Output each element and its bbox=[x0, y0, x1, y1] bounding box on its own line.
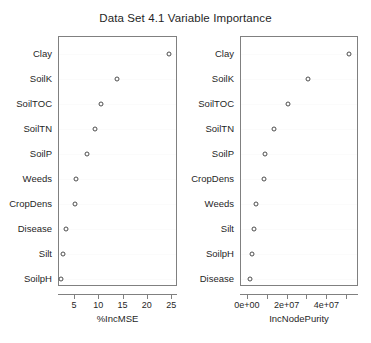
x-axis-tick bbox=[74, 295, 75, 299]
grid-row bbox=[241, 79, 357, 80]
x-axis-tick bbox=[147, 295, 148, 299]
data-point-soilk bbox=[115, 77, 120, 82]
grid-row bbox=[241, 104, 357, 105]
x-axis-tick-label: 0e+00 bbox=[234, 301, 259, 310]
category-label-clay: Clay bbox=[0, 49, 52, 59]
grid-row bbox=[59, 54, 176, 55]
data-point-weeds bbox=[73, 177, 78, 182]
x-axis-tick-label: 2e+07 bbox=[274, 301, 299, 310]
grid-row bbox=[241, 204, 357, 205]
plot-area bbox=[240, 36, 358, 286]
grid-row bbox=[241, 54, 357, 55]
x-axis-tick bbox=[267, 295, 268, 299]
grid-row bbox=[59, 279, 176, 280]
category-label-weeds: Weeds bbox=[182, 199, 234, 209]
x-axis-tick bbox=[171, 295, 172, 299]
x-axis-tick-label: 5 bbox=[72, 301, 77, 310]
category-label-soilp: SoilP bbox=[182, 149, 234, 159]
category-label-weeds: Weeds bbox=[0, 174, 52, 184]
x-axis-tick-label: 4e+07 bbox=[314, 301, 339, 310]
grid-row bbox=[241, 154, 357, 155]
x-axis-tick bbox=[306, 295, 307, 299]
grid-row bbox=[241, 129, 357, 130]
grid-row bbox=[241, 279, 357, 280]
data-point-clay bbox=[166, 52, 171, 57]
grid-row bbox=[59, 154, 176, 155]
grid-row bbox=[241, 179, 357, 180]
grid-row bbox=[241, 254, 357, 255]
category-label-soilk: SoilK bbox=[0, 74, 52, 84]
category-label-cropdens: CropDens bbox=[0, 199, 52, 209]
x-axis-tick bbox=[123, 295, 124, 299]
category-label-soiltoc: SoilTOC bbox=[182, 99, 234, 109]
category-label-silt: Silt bbox=[182, 224, 234, 234]
grid-row bbox=[59, 229, 176, 230]
x-axis-line bbox=[58, 294, 177, 295]
variable-importance-figure: Data Set 4.1 Variable Importance ClaySoi… bbox=[0, 0, 371, 343]
data-point-disease bbox=[247, 277, 252, 282]
grid-row bbox=[59, 104, 176, 105]
category-label-soiltn: SoilTN bbox=[0, 124, 52, 134]
page-title: Data Set 4.1 Variable Importance bbox=[0, 12, 371, 24]
grid-row bbox=[59, 254, 176, 255]
data-point-soiltoc bbox=[285, 102, 290, 107]
grid-row bbox=[241, 229, 357, 230]
data-point-soilp bbox=[262, 152, 267, 157]
data-point-soiltn bbox=[92, 127, 97, 132]
x-axis-title: IncNodePurity bbox=[269, 314, 329, 324]
category-label-soilk: SoilK bbox=[182, 74, 234, 84]
data-point-weeds bbox=[253, 202, 258, 207]
data-point-soiltn bbox=[271, 127, 276, 132]
x-axis-tick bbox=[346, 295, 347, 299]
x-axis-title: %IncMSE bbox=[97, 314, 139, 324]
data-point-silt bbox=[61, 252, 66, 257]
x-axis-tick bbox=[326, 295, 327, 299]
category-label-soilph: SoilpH bbox=[0, 274, 52, 284]
x-axis-tick bbox=[247, 295, 248, 299]
x-axis-line bbox=[240, 294, 358, 295]
x-axis-tick-label: 20 bbox=[142, 301, 152, 310]
x-axis-tick-label: 10 bbox=[93, 301, 103, 310]
data-point-soilph bbox=[58, 277, 63, 282]
data-point-cropdens bbox=[73, 202, 78, 207]
data-point-clay bbox=[347, 52, 352, 57]
category-label-soiltoc: SoilTOC bbox=[0, 99, 52, 109]
category-label-soilp: SoilP bbox=[0, 149, 52, 159]
data-point-soilph bbox=[249, 252, 254, 257]
category-label-disease: Disease bbox=[182, 274, 234, 284]
category-label-disease: Disease bbox=[0, 224, 52, 234]
category-label-soilph: SoilpH bbox=[182, 249, 234, 259]
x-axis-tick bbox=[98, 295, 99, 299]
plot-area bbox=[58, 36, 177, 286]
x-axis-tick-label: 15 bbox=[118, 301, 128, 310]
data-point-silt bbox=[251, 227, 256, 232]
grid-row bbox=[59, 129, 176, 130]
data-point-soilk bbox=[306, 77, 311, 82]
x-axis-tick-label: 25 bbox=[166, 301, 176, 310]
data-point-cropdens bbox=[261, 177, 266, 182]
data-point-soiltoc bbox=[99, 102, 104, 107]
data-point-soilp bbox=[84, 152, 89, 157]
category-label-cropdens: CropDens bbox=[182, 174, 234, 184]
data-point-disease bbox=[63, 227, 68, 232]
category-label-silt: Silt bbox=[0, 249, 52, 259]
category-label-soiltn: SoilTN bbox=[182, 124, 234, 134]
category-label-clay: Clay bbox=[182, 49, 234, 59]
x-axis-tick bbox=[287, 295, 288, 299]
